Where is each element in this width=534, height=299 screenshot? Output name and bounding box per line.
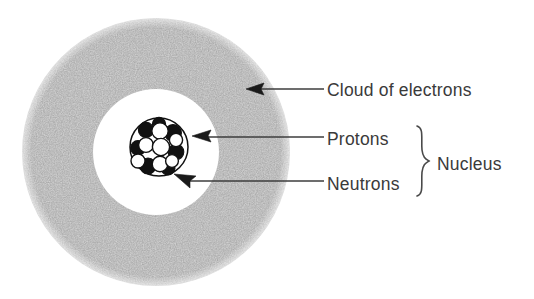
nucleus-cluster (130, 117, 188, 176)
neutron-particle (169, 133, 182, 146)
atom-diagram: Cloud of electrons Protons Neutrons Nucl… (0, 0, 534, 299)
electron-cloud-ring (0, 0, 534, 299)
neutron-particle (152, 138, 169, 155)
neutron-particle (166, 155, 179, 168)
label-protons: Protons (327, 129, 389, 149)
neutron-particle (152, 123, 168, 139)
atom-diagram-svg: Cloud of electrons Protons Neutrons Nucl… (0, 0, 534, 299)
label-neutrons: Neutrons (327, 174, 400, 194)
label-cloud-of-electrons: Cloud of electrons (327, 80, 472, 100)
neutron-particle (131, 154, 145, 168)
neutron-particle (139, 138, 154, 153)
label-nucleus: Nucleus (437, 154, 502, 174)
